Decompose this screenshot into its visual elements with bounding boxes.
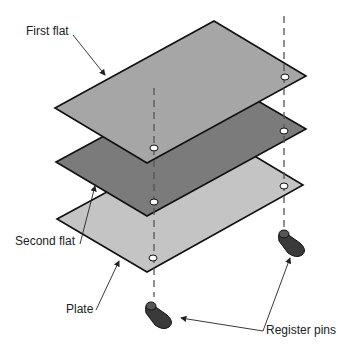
hole-icon	[150, 145, 158, 151]
hole-icon	[149, 255, 157, 261]
register-pins-label: Register pins	[266, 323, 336, 337]
plate-leader	[96, 261, 119, 310]
hole-icon	[150, 199, 158, 205]
hole-icon	[281, 74, 289, 80]
hole-icon	[280, 128, 288, 134]
register-pins-leader-left	[181, 318, 263, 331]
first-flat-leader	[73, 35, 105, 75]
register-pin-icon	[279, 230, 305, 257]
register-pin-icon	[146, 302, 172, 329]
first-flat-label: First flat	[26, 24, 69, 38]
second-flat-label: Second flat	[15, 234, 75, 248]
register-diagram	[0, 0, 338, 351]
hole-icon	[280, 183, 288, 189]
plate-label: Plate	[66, 302, 93, 316]
register-pins-leader-right	[263, 258, 290, 331]
